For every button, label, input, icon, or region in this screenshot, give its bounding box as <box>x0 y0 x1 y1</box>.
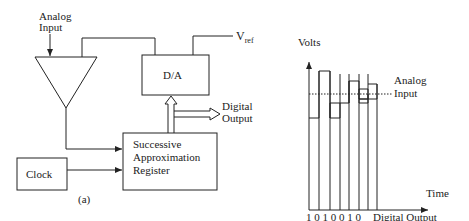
analog-input-level-label-2: Input <box>394 87 417 99</box>
sar-label-3: Register <box>133 164 170 176</box>
dac-label: D/A <box>163 69 182 81</box>
digital-output-bits: 1 0 1 0 0 1 0 <box>306 211 362 221</box>
y-axis-label: Volts <box>298 36 320 48</box>
panel-a <box>17 34 233 190</box>
digital-output-axis-label: Digital Output <box>373 211 437 221</box>
sar-label-1: Successive <box>133 138 181 150</box>
analog-input-label-2: Input <box>39 21 62 33</box>
vref-label: Vref <box>236 29 254 45</box>
clock-label: Clock <box>26 168 53 180</box>
sar-label-2: Approximation <box>133 151 201 163</box>
analog-input-level-label: Analog <box>394 74 427 86</box>
vref-line <box>193 36 233 55</box>
dac-approximation-steps-4 <box>359 94 368 99</box>
caption-a: (a) <box>78 193 91 206</box>
adc-diagram: Analog Input D/A Vref Digital Output Suc… <box>0 0 469 221</box>
sar-to-dac-bus-arrow <box>165 96 177 133</box>
dac-approximation-steps-2 <box>330 103 340 118</box>
comparator-output-line <box>66 108 122 149</box>
dac-feedback-line <box>82 38 155 57</box>
digital-output-bus-arrow <box>174 108 220 120</box>
digital-output-label-2: Output <box>222 112 253 124</box>
digital-output-label: Digital <box>222 100 253 112</box>
x-axis-label: Time <box>426 187 449 199</box>
comparator-triangle <box>35 57 97 108</box>
